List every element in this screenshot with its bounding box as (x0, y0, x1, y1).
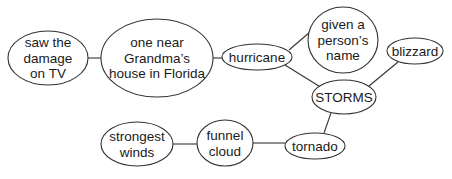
node-tornado: tornado (285, 133, 345, 159)
node-label: saw the (25, 35, 72, 50)
storms-web-diagram: saw thedamageon TVone nearGrandma’shouse… (0, 0, 452, 179)
node-blizzard: blizzard (387, 38, 443, 64)
edge-storms-tornado (324, 113, 331, 133)
edge-hurricane-name (289, 32, 310, 50)
node-label: hurricane (229, 50, 285, 65)
node-label: cloud (209, 144, 241, 159)
node-name: given aperson’sname (308, 7, 378, 73)
node-label: tornado (292, 139, 338, 154)
node-label: blizzard (392, 44, 439, 59)
node-funnel: funnelcloud (197, 120, 253, 166)
node-label: funnel (207, 128, 244, 143)
nodes: saw thedamageon TVone nearGrandma’shouse… (8, 7, 443, 166)
node-label: name (326, 48, 360, 63)
node-label: damage (24, 51, 73, 66)
node-hurricane: hurricane (222, 44, 292, 70)
node-grandma: one nearGrandma’shouse in Florida (101, 19, 213, 97)
node-tv: saw thedamageon TV (8, 31, 88, 85)
node-label: STORMS (315, 90, 373, 105)
node-label: Grandma’s (124, 51, 190, 66)
edge-hurricane-storms (285, 65, 322, 88)
node-label: person’s (318, 33, 369, 48)
node-label: strongest (109, 129, 165, 144)
edge-blizzard-storms (369, 62, 398, 86)
node-winds: strongestwinds (101, 122, 173, 166)
node-label: winds (119, 145, 155, 160)
node-label: one near (130, 35, 184, 50)
node-label: on TV (30, 66, 66, 81)
node-label: given a (321, 17, 365, 32)
node-label: house in Florida (109, 66, 206, 81)
node-storms: STORMS (312, 80, 376, 114)
